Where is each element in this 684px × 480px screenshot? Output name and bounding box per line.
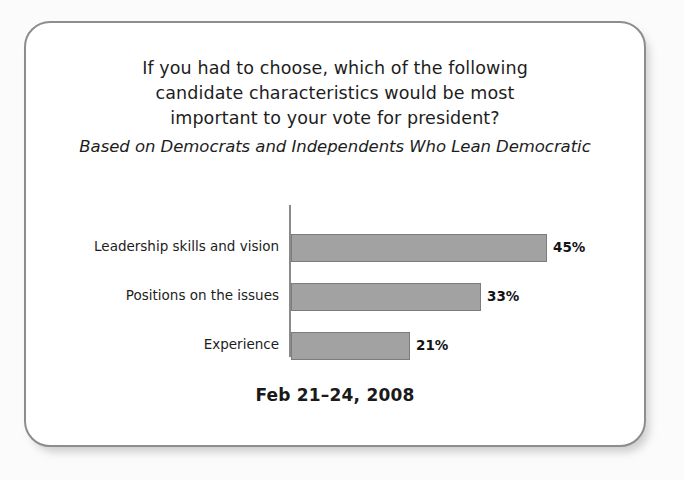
chart-subtitle: Based on Democrats and Independents Who … (26, 136, 644, 158)
bar-category-label: Leadership skills and vision (39, 238, 279, 254)
survey-date: Feb 21–24, 2008 (26, 385, 644, 405)
bar-category-label: Experience (39, 336, 279, 352)
bar-row: Leadership skills and vision 45% (26, 234, 648, 262)
bar-chart: Leadership skills and vision 45% Positio… (26, 205, 648, 360)
bar-rect (291, 332, 410, 360)
chart-card: If you had to choose, which of the follo… (24, 21, 646, 447)
bar-value-label: 33% (487, 288, 519, 304)
title-line-1: If you had to choose, which of the follo… (26, 56, 644, 81)
bar-row: Experience 21% (26, 332, 648, 360)
bar-rect (291, 234, 547, 262)
bar-rect (291, 283, 481, 311)
bar-value-label: 21% (416, 337, 448, 353)
bar-category-label: Positions on the issues (39, 287, 279, 303)
bar-value-label: 45% (553, 239, 585, 255)
bar-row: Positions on the issues 33% (26, 283, 648, 311)
chart-title: If you had to choose, which of the follo… (26, 56, 644, 131)
title-line-2: candidate characteristics would be most (26, 81, 644, 106)
title-line-3: important to your vote for president? (26, 106, 644, 131)
